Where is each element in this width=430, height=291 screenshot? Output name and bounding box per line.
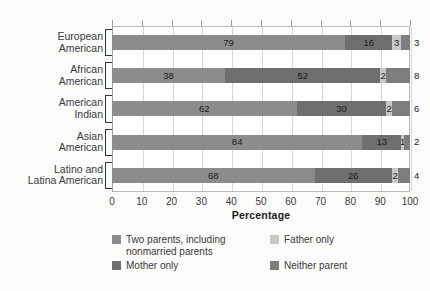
- x-tick-label: 30: [196, 196, 207, 207]
- x-tick-label: 90: [375, 196, 386, 207]
- bar-segment: 3: [392, 35, 401, 50]
- legend-label: Mother only: [126, 260, 178, 272]
- legend-item: Mother only: [112, 260, 178, 272]
- bar-row: African American385228: [0, 59, 430, 92]
- legend-item: Two parents, including nonmarried parent…: [112, 234, 226, 257]
- x-tick-label: 50: [255, 196, 266, 207]
- bar-row: Asian American841312: [0, 126, 430, 159]
- bar-segment: 2: [404, 135, 410, 150]
- bar-value-label: 16: [363, 38, 374, 48]
- bar-value-label: 30: [336, 104, 347, 114]
- bar-segment: 38: [112, 68, 225, 83]
- bar-segment: 6: [392, 101, 410, 116]
- stacked-bar: 791633: [112, 35, 410, 50]
- x-tick-label: 60: [285, 196, 296, 207]
- bar-value-label: 52: [297, 71, 308, 81]
- x-tick-label: 0: [109, 196, 115, 207]
- bar-value-label: 38: [163, 71, 174, 81]
- bar-value-label: 68: [208, 171, 219, 181]
- bar-segment: 16: [345, 35, 392, 50]
- x-tick-label: 100: [402, 196, 419, 207]
- legend-item: Neither parent: [270, 260, 347, 272]
- category-label: American Indian: [0, 97, 103, 120]
- stacked-bar: 841312: [112, 135, 410, 150]
- category-label: Asian American: [0, 131, 103, 154]
- bar-segment: 13: [362, 135, 401, 150]
- stacked-bar: 682624: [112, 168, 410, 183]
- bar-row: Latino and Latina American682624: [0, 159, 430, 192]
- legend-swatch: [270, 261, 279, 270]
- x-tick-label: 80: [345, 196, 356, 207]
- bar-value-label: 4: [414, 171, 419, 181]
- bar-value-label: 2: [386, 104, 391, 114]
- x-axis: 0102030405060708090100: [112, 192, 410, 210]
- legend-label: Father only: [284, 234, 334, 246]
- bar-segment: 8: [386, 68, 410, 83]
- bar-value-label: 62: [199, 104, 210, 114]
- bar-segment: 68: [112, 168, 315, 183]
- bar-segment: 52: [225, 68, 380, 83]
- legend-swatch: [270, 235, 279, 244]
- bar-segment: 30: [297, 101, 386, 116]
- bar-segment: 84: [112, 135, 362, 150]
- category-label: African American: [0, 64, 103, 87]
- legend-swatch: [112, 261, 121, 270]
- bar-segment: 3: [401, 35, 410, 50]
- bar-value-label: 2: [392, 171, 397, 181]
- bar-value-label: 3: [414, 38, 419, 48]
- bar-value-label: 3: [394, 38, 399, 48]
- bar-value-label: 8: [414, 71, 419, 81]
- stacked-bar: 385228: [112, 68, 410, 83]
- bar-value-label: 2: [414, 137, 419, 147]
- category-label: European American: [0, 31, 103, 54]
- x-tick-label: 70: [315, 196, 326, 207]
- x-axis-title: Percentage: [112, 209, 410, 221]
- legend-label: Two parents, including nonmarried parent…: [126, 234, 226, 257]
- bar-value-label: 84: [232, 137, 243, 147]
- bar-segment: 4: [398, 168, 410, 183]
- bar-value-label: 2: [381, 71, 386, 81]
- chart-legend: Two parents, including nonmarried parent…: [112, 234, 412, 282]
- legend-item: Father only: [270, 234, 334, 246]
- bar-row: American Indian623026: [0, 92, 430, 125]
- bar-segment: 26: [315, 168, 392, 183]
- stacked-bar: 623026: [112, 101, 410, 116]
- bar-segment: 79: [112, 35, 345, 50]
- legend-label: Neither parent: [284, 260, 347, 272]
- bar-value-label: 26: [348, 171, 359, 181]
- bar-row: European American791633: [0, 26, 430, 59]
- x-tick-label: 10: [136, 196, 147, 207]
- legend-swatch: [112, 235, 121, 244]
- bar-value-label: 79: [223, 38, 234, 48]
- bar-rows: European American791633African American3…: [0, 26, 430, 192]
- category-label: Latino and Latina American: [0, 164, 103, 187]
- chart-figure: European American791633African American3…: [0, 0, 430, 291]
- bar-value-label: 13: [376, 137, 387, 147]
- bar-value-label: 6: [414, 104, 419, 114]
- x-tick-label: 20: [166, 196, 177, 207]
- x-tick-label: 40: [226, 196, 237, 207]
- bar-segment: 62: [112, 101, 297, 116]
